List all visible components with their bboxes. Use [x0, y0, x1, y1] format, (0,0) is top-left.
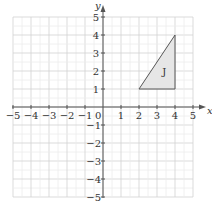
y-arrow-icon: [101, 5, 106, 12]
y-axis-label: y: [94, 0, 101, 11]
x-tick-label: −5: [6, 110, 21, 121]
y-tick-label: 3: [93, 48, 99, 59]
y-tick-label: −5: [86, 192, 101, 203]
x-tick-label: −3: [42, 110, 57, 121]
coordinate-grid: J x y 0 −5−4−3−2−11234512345−1−2−3−4−5: [0, 0, 212, 204]
y-tick-label: 1: [93, 84, 99, 95]
y-tick-label: 5: [93, 12, 99, 23]
x-tick-label: −4: [24, 110, 39, 121]
x-tick-label: 2: [136, 110, 142, 121]
x-tick-label: 5: [190, 110, 196, 121]
x-tick-label: −2: [60, 110, 75, 121]
x-tick-label: 3: [154, 110, 160, 121]
axes: [12, 5, 206, 198]
y-tick-label: 4: [93, 30, 99, 41]
y-tick-label: −3: [86, 156, 101, 167]
triangle-label: J: [161, 66, 166, 77]
x-axis-label: x: [207, 105, 212, 116]
y-tick-label: −2: [86, 138, 101, 149]
y-tick-label: −4: [86, 174, 101, 185]
y-tick-label: −1: [86, 120, 101, 131]
y-tick-label: 2: [93, 66, 99, 77]
x-tick-label: 4: [172, 110, 178, 121]
x-arrow-icon: [199, 105, 206, 110]
x-tick-label: 1: [118, 110, 124, 121]
